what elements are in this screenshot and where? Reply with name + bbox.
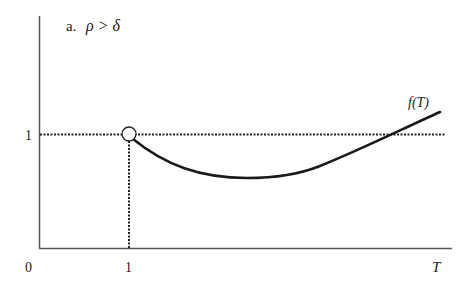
curve-label: f(T) (408, 95, 429, 111)
x-axis-label: T (432, 259, 442, 275)
x-tick-1: 1 (125, 260, 132, 275)
chart: a. ρ > δ 1 0 1 T f(T) (0, 0, 473, 286)
curve-f-of-T (133, 112, 440, 178)
open-circle-marker (122, 127, 136, 141)
panel-label: a. (66, 18, 76, 34)
x-tick-0: 0 (25, 260, 32, 275)
condition-label: ρ > δ (85, 17, 120, 35)
y-tick-1: 1 (25, 128, 32, 143)
